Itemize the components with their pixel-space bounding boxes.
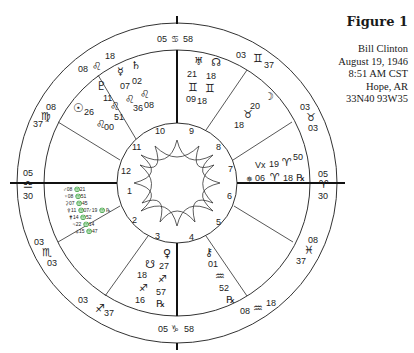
svg-text:08: 08: [144, 100, 154, 110]
svg-text:58: 58: [183, 34, 193, 44]
birth-place: Hope, AR: [338, 81, 408, 94]
svg-text:03: 03: [78, 295, 88, 305]
svg-text:♉: ♉: [243, 108, 253, 121]
svg-text:57: 57: [156, 287, 166, 297]
house-number-3: 3: [155, 231, 160, 241]
svg-text:♋: ♋: [171, 34, 179, 44]
svg-text:08: 08: [240, 306, 250, 316]
svg-text:03: 03: [47, 258, 57, 268]
uranus-glyph: ♅: [194, 55, 204, 68]
birth-date: August 19, 1946: [338, 56, 408, 69]
house-number-11: 11: [132, 142, 141, 152]
aspect-star: [134, 140, 220, 226]
chiron-glyph: ⚷: [205, 246, 213, 259]
svg-text:27: 27: [159, 261, 169, 271]
pluto-glyph: ♇: [96, 79, 107, 93]
svg-text:♒: ♒: [253, 302, 263, 315]
svg-text:08: 08: [78, 64, 88, 74]
svg-text:03: 03: [236, 50, 246, 60]
svg-text:16: 16: [135, 295, 145, 305]
svg-text:18: 18: [197, 96, 207, 106]
svg-text:♊: ♊: [188, 81, 198, 94]
svg-text:⚵14 ♎52: ⚵14 ♎52: [69, 214, 92, 221]
house-number-2: 2: [132, 215, 137, 225]
subject-name: Bill Clinton: [338, 43, 408, 56]
svg-text:05: 05: [157, 34, 167, 44]
svg-text:30: 30: [318, 191, 328, 201]
house-number-9: 9: [189, 126, 194, 136]
birth-time: 8:51 AM CST: [338, 68, 408, 81]
svg-text:⚶15 ♎47: ⚶15 ♎47: [75, 228, 98, 235]
house-number-6: 6: [227, 191, 232, 201]
svg-text:18: 18: [105, 51, 115, 61]
svg-text:⚳07 ♎45: ⚳07 ♎45: [65, 200, 88, 207]
svg-text:07: 07: [120, 81, 130, 91]
svg-text:♐: ♐: [139, 282, 148, 293]
house7-planet-list: ♂08 ♎21 ♆08 ♎51 ⚳07 ♎45 ⚴11 ♎07 ⚵14 ♎52 …: [63, 186, 111, 235]
svg-text:52: 52: [219, 283, 229, 293]
svg-text:℞: ℞: [156, 298, 165, 309]
svg-text:♈: ♈: [270, 171, 280, 184]
svg-text:♎: ♎: [23, 178, 33, 191]
svg-text:37: 37: [264, 60, 274, 70]
svg-text:00: 00: [104, 122, 114, 132]
north-node-glyph: ☊: [211, 56, 221, 69]
house-number-4: 4: [189, 232, 194, 242]
svg-text:02: 02: [132, 76, 142, 86]
svg-text:♒: ♒: [215, 270, 225, 283]
house-number-5: 5: [216, 217, 221, 227]
svg-text:26: 26: [84, 107, 94, 117]
svg-text:58: 58: [184, 324, 194, 334]
svg-text:18: 18: [206, 71, 216, 81]
svg-text:♂19 ♎ ℞: ♂19 ♎ ℞: [88, 207, 111, 214]
figure-title: Figure 1: [338, 14, 408, 29]
svg-text:℞: ℞: [296, 172, 305, 183]
svg-text:36: 36: [133, 103, 143, 113]
venus-glyph: ♀: [163, 247, 171, 260]
saturn-glyph: ♄: [131, 59, 141, 72]
house-number-7: 7: [228, 164, 233, 174]
svg-text:03: 03: [308, 123, 318, 133]
svg-text:♆08 ♎51: ♆08 ♎51: [64, 193, 86, 200]
svg-text:♃22 ♎14: ♃22 ♎14: [72, 221, 94, 228]
svg-text:♂08 ♎21: ♂08 ♎21: [63, 186, 85, 193]
svg-text:01: 01: [208, 259, 218, 269]
svg-text:19: 19: [269, 159, 279, 169]
svg-text:51: 51: [114, 112, 124, 122]
house-number-10: 10: [155, 126, 165, 136]
mercury-glyph: ☿: [117, 65, 124, 78]
svg-text:18: 18: [266, 298, 276, 308]
svg-text:℞: ℞: [226, 294, 235, 305]
svg-text:37: 37: [296, 256, 306, 266]
house-number-12: 12: [121, 166, 131, 176]
eris-glyph: ✵: [246, 175, 253, 184]
house-number-1: 1: [127, 186, 132, 196]
svg-text:37: 37: [104, 308, 114, 318]
moon-glyph: ☽: [264, 90, 274, 103]
svg-text:♑: ♑: [171, 324, 179, 334]
svg-text:♊: ♊: [205, 82, 215, 95]
svg-text:30: 30: [23, 191, 33, 201]
svg-text:♈: ♈: [319, 178, 329, 191]
svg-text:♊: ♊: [253, 52, 263, 65]
svg-text:50: 50: [293, 152, 303, 162]
birth-coordinates: 33N40 93W35: [338, 93, 408, 106]
svg-text:♈: ♈: [282, 156, 292, 169]
svg-text:⚴11 ♎07: ⚴11 ♎07: [67, 207, 89, 214]
house-number-8: 8: [216, 142, 221, 152]
svg-text:21: 21: [187, 69, 197, 79]
svg-text:09: 09: [186, 94, 196, 104]
svg-text:18: 18: [234, 120, 244, 130]
svg-text:06: 06: [255, 173, 265, 183]
svg-text:18: 18: [283, 173, 293, 183]
svg-text:37: 37: [33, 119, 43, 129]
svg-text:♐: ♐: [158, 273, 167, 284]
sun-glyph: ☉: [73, 101, 84, 115]
svg-text:05: 05: [23, 168, 33, 178]
vertex-glyph: Vx: [255, 160, 266, 170]
svg-text:18: 18: [137, 270, 147, 280]
svg-text:05: 05: [158, 324, 168, 334]
chart-caption: Figure 1 Bill Clinton August 19, 1946 8:…: [338, 14, 408, 106]
svg-text:♌: ♌: [92, 60, 102, 73]
